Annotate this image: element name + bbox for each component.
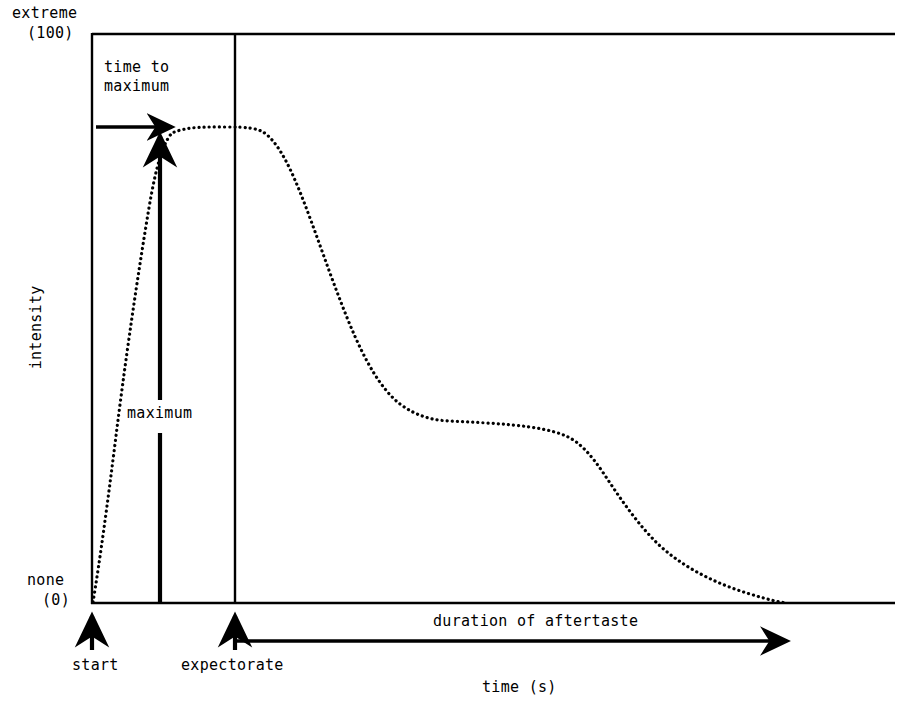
time-intensity-figure: extreme (100) none (0) intensity time to… (0, 0, 914, 715)
duration-of-aftertaste-label: duration of aftertaste (428, 612, 643, 631)
time-to-maximum-label: time to maximum (104, 58, 169, 96)
start-event-label: start (72, 656, 119, 675)
x-axis-title: time (s) (482, 678, 557, 697)
y-axis-min-value: (0) (42, 591, 70, 610)
y-axis-min-label: none (27, 571, 64, 590)
figure-canvas (0, 0, 914, 715)
y-axis-max-value: (100) (27, 24, 74, 43)
intensity-curve (93, 127, 787, 603)
y-axis-title: intensity (27, 285, 46, 369)
time-to-maximum-label-line2: maximum (104, 77, 169, 96)
y-axis-max-label: extreme (12, 4, 77, 23)
time-to-maximum-label-line1: time to (104, 58, 169, 77)
maximum-label: maximum (123, 403, 196, 424)
expectorate-event-label: expectorate (181, 656, 284, 675)
